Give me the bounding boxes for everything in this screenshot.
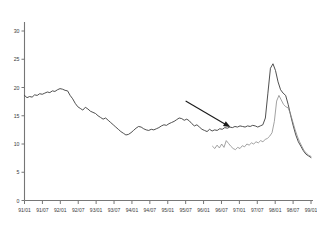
- y-axis-tick-label: 30: [14, 28, 20, 34]
- x-axis-tick-label: 91/07: [36, 207, 49, 213]
- x-axis-tick-label: 98/07: [287, 207, 300, 213]
- y-axis-tick-label: 15: [14, 113, 20, 119]
- x-axis-tick-label: 96/01: [197, 207, 210, 213]
- chart-background: [0, 0, 317, 229]
- x-axis-tick-label: 97/07: [251, 207, 264, 213]
- x-axis-tick-label: 97/01: [233, 207, 246, 213]
- x-axis-tick-label: 94/01: [126, 207, 139, 213]
- x-axis-tick-label: 93/07: [108, 207, 121, 213]
- chart-canvas: 051015202530 91/0191/0792/0192/0793/0193…: [0, 0, 317, 229]
- y-axis-tick-label: 0: [17, 198, 20, 204]
- x-axis-tick-label: 96/07: [215, 207, 228, 213]
- x-axis-tick-label: 94/07: [144, 207, 157, 213]
- y-axis-tick-label: 25: [14, 56, 20, 62]
- x-axis-tick-label: 91/01: [18, 207, 31, 213]
- x-axis-tick-label: 95/07: [179, 207, 192, 213]
- x-axis-tick-label: 99/01: [305, 207, 317, 213]
- line-chart: 051015202530 91/0191/0792/0192/0793/0193…: [0, 0, 317, 229]
- y-axis-tick-label: 10: [14, 141, 20, 147]
- y-axis-tick-label: 5: [17, 169, 20, 175]
- y-axis-tick-label: 20: [14, 85, 20, 91]
- x-axis-tick-label: 95/01: [161, 207, 174, 213]
- x-axis-tick-label: 98/01: [269, 207, 282, 213]
- x-axis-tick-label: 93/01: [90, 207, 103, 213]
- x-axis-tick-label: 92/01: [54, 207, 67, 213]
- x-axis-tick-label: 92/07: [72, 207, 85, 213]
